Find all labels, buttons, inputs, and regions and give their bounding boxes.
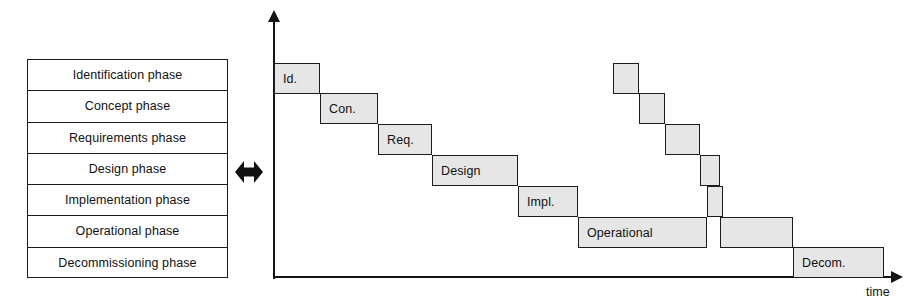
bar-design: Design: [432, 155, 518, 186]
bar-decommissioning: Decom.: [793, 247, 884, 278]
bar-label: Con.: [329, 102, 356, 116]
bar-secondary-requirements: [665, 124, 700, 155]
bar-secondary-operational: [720, 217, 793, 248]
bar-label: Operational: [587, 226, 653, 240]
diagram-canvas: Identification phase Concept phase Requi…: [0, 0, 912, 308]
y-axis-line: [273, 18, 275, 279]
bar-label: Impl.: [527, 195, 555, 209]
bar-label: Id.: [283, 72, 297, 86]
bar-secondary-design: [700, 155, 720, 186]
bar-identification: Id.: [274, 63, 320, 94]
y-axis-arrow-icon: [268, 10, 280, 22]
bar-secondary-concept: [639, 93, 665, 124]
bar-operational: Operational: [578, 217, 707, 248]
bar-label: Design: [441, 164, 481, 178]
bar-label: Req.: [387, 133, 414, 147]
bar-implementation: Impl.: [518, 186, 578, 217]
waterfall-timeline-chart: time Id. Con. Req. Design Impl. Operatio…: [0, 0, 912, 308]
x-axis-arrow-icon: [891, 271, 903, 283]
x-axis-label: time: [866, 285, 890, 299]
bar-requirements: Req.: [378, 124, 432, 155]
bar-secondary-identification: [613, 63, 639, 94]
bar-concept: Con.: [320, 93, 378, 124]
bar-secondary-implementation: [707, 186, 723, 217]
bar-label: Decom.: [802, 256, 846, 270]
